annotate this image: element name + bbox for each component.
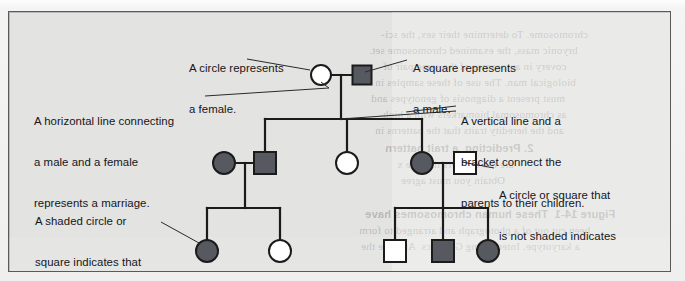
individual-III-3-square-unshaded xyxy=(384,240,406,262)
callout-unshaded-not-express: A circle or square that is not shaded in… xyxy=(499,162,616,272)
callout-shaded-line-2: square indicates that xyxy=(35,256,141,270)
callout-vertical-bracket-line-1: A vertical line and a xyxy=(461,115,585,129)
individual-II-4-circle-shaded xyxy=(411,152,433,174)
callout-shaded-line-1: A shaded circle or xyxy=(35,215,141,229)
individual-II-2-square-shaded xyxy=(254,152,276,174)
individual-III-4-square-shaded xyxy=(432,240,454,262)
individual-I-2-square-shaded xyxy=(353,66,372,85)
generation-2-group xyxy=(207,152,488,240)
individual-III-1-circle-shaded xyxy=(196,240,218,262)
individual-III-2-circle-unshaded xyxy=(269,240,291,262)
individual-II-3-circle-unshaded xyxy=(336,152,358,174)
callout-circle-female: A circle represents a female. xyxy=(189,35,284,144)
callout-marriage-line-1: A horizontal line connecting xyxy=(34,115,174,129)
figure-frame: chromosome. To determine their sex, the … xyxy=(8,11,671,272)
generation-3-group xyxy=(196,240,499,262)
callout-circle-female-line-1: A circle represents xyxy=(189,62,284,76)
callout-unshaded-line-1: A circle or square that xyxy=(499,189,616,203)
figure-screenshot: chromosome. To determine their sex, the … xyxy=(0,0,685,281)
individual-III-5-circle-shaded xyxy=(477,240,499,262)
callout-unshaded-line-2: is not shaded indicates xyxy=(499,230,616,244)
callout-shaded-expresses: A shaded circle or square indicates that… xyxy=(35,188,141,272)
callout-square-male-line-1: A square represents xyxy=(413,62,516,76)
individual-II-1-circle-shaded xyxy=(213,152,235,174)
callout-marriage-line-2: a male and a female xyxy=(34,156,174,170)
callout-circle-female-line-2: a female. xyxy=(189,103,284,117)
callout-unshaded-line-3: that a person does not xyxy=(499,271,616,272)
generation-1-group xyxy=(265,65,422,152)
